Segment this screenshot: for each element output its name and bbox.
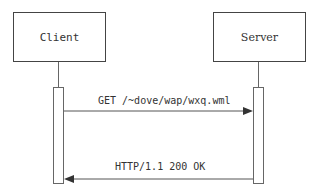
request-message-label: GET /~dove/wap/wxq.wml xyxy=(98,95,230,106)
response-message-label: HTTP/1.1 200 OK xyxy=(115,161,205,172)
